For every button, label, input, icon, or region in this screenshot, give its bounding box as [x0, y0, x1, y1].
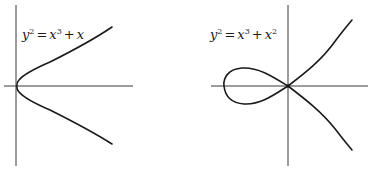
- figure-canvas: [0, 0, 368, 172]
- left-equation-label: y2=x3+x: [22, 28, 84, 41]
- right-equation-label: y2=x3+x2: [210, 28, 277, 41]
- right-curve-upper-branch: [288, 20, 352, 86]
- node-point: [286, 84, 290, 88]
- right-curve-lower-branch: [288, 86, 352, 150]
